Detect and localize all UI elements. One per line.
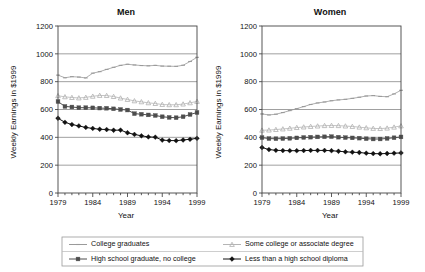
data-point-diamond [146, 135, 151, 140]
legend-item-label: High school graduate, no college [91, 254, 196, 263]
data-point-square [316, 135, 320, 139]
data-point-square [385, 137, 389, 141]
data-point-diamond [322, 148, 327, 153]
x-tick-label: 1994 [154, 198, 171, 207]
y-tick-label: 1000 [36, 50, 53, 59]
data-point-square [105, 106, 109, 110]
panel-title-women: Women [314, 7, 346, 17]
y-tick-label: 1200 [36, 22, 53, 31]
series-line [58, 57, 197, 78]
data-point-diamond [63, 120, 68, 125]
legend-item-label: Less than a high school diploma [245, 254, 348, 263]
x-tick-label: 1989 [119, 198, 136, 207]
x-tick-label: 1984 [288, 198, 305, 207]
data-point-diamond [274, 148, 279, 153]
data-point-diamond [350, 150, 355, 155]
series-3 [260, 145, 404, 156]
data-point-diamond [118, 128, 123, 133]
x-tick-label: 1984 [84, 198, 101, 207]
y-tick-label: 0 [49, 189, 53, 198]
data-point-diamond [104, 127, 109, 132]
data-point-diamond [315, 148, 320, 153]
data-point-diamond [83, 125, 88, 130]
x-tick-label: 1999 [189, 198, 206, 207]
x-tick-label: 1994 [358, 198, 375, 207]
data-point-diamond [336, 149, 341, 154]
data-point-square [378, 137, 382, 141]
series-2 [260, 135, 403, 141]
y-tick-label: 200 [40, 161, 53, 170]
series-1 [56, 93, 200, 107]
data-point-diamond [308, 148, 313, 153]
data-point-diamond [125, 130, 130, 135]
data-point-square [344, 136, 348, 140]
xtick-labels-women: 19791984198919941999 [254, 198, 410, 207]
data-point-square [119, 108, 123, 112]
x-tick-label: 1979 [50, 198, 67, 207]
data-point-square [98, 106, 102, 110]
x-tick-label: 1979 [254, 198, 271, 207]
data-point-square [357, 136, 361, 140]
data-point-square [295, 136, 299, 140]
x-tick-label: 1989 [323, 198, 340, 207]
y-tick-label: 400 [40, 133, 53, 142]
xtick-labels-men: 19791984198919941999 [50, 198, 206, 207]
data-point-diamond [90, 126, 95, 131]
data-point-diamond [132, 132, 137, 137]
data-point-diamond [153, 135, 158, 140]
data-point-square [181, 115, 185, 119]
ytick-labels-men: 020040060080010001200 [36, 22, 53, 198]
data-point-diamond [174, 138, 179, 143]
data-point-square [160, 115, 164, 119]
data-point-square [153, 114, 157, 118]
y-tick-label: 200 [244, 161, 257, 170]
legend: College graduatesSome college or associa… [62, 237, 363, 266]
data-point-diamond [301, 148, 306, 153]
data-point-diamond [280, 148, 285, 153]
data-point-square [323, 135, 327, 139]
data-point-diamond [378, 151, 383, 156]
data-point-square [281, 137, 285, 141]
data-point-diamond [392, 151, 397, 156]
data-point-diamond [267, 147, 272, 152]
data-point-diamond [294, 148, 299, 153]
data-point-diamond [97, 127, 102, 132]
y-tick-label: 600 [244, 105, 257, 114]
data-point-diamond [160, 138, 165, 143]
figure-root: Men Weekly Earnings in $1999 Year 020040… [0, 0, 425, 272]
y-tick-label: 600 [40, 105, 53, 114]
panel-women: Women Weekly Earnings in $1999 Year 0200… [214, 7, 409, 220]
data-point-diamond [343, 149, 348, 154]
legend-item-label: College graduates [91, 239, 150, 248]
data-point-square [91, 106, 95, 110]
series-0 [56, 57, 199, 78]
data-point-square [364, 137, 368, 141]
data-point-diamond [329, 148, 334, 153]
data-point-diamond [167, 138, 172, 143]
series-1 [260, 123, 404, 132]
data-point-square [188, 113, 192, 117]
y-tick-label: 800 [244, 77, 257, 86]
data-point-square [371, 137, 375, 141]
data-point-diamond [371, 151, 376, 156]
panel-title-men: Men [117, 7, 135, 17]
ticks-women [259, 26, 401, 197]
data-point-square [330, 135, 334, 139]
data-point-diamond [385, 151, 390, 156]
data-point-diamond [181, 138, 186, 143]
series-3 [56, 116, 200, 143]
series-0 [260, 90, 403, 115]
data-point-square [146, 113, 150, 117]
data-point-square [140, 112, 144, 116]
data-point-square [174, 116, 178, 120]
data-point-square [267, 137, 271, 141]
series-group-men [56, 57, 200, 143]
data-point-square [126, 108, 130, 112]
x-axis-title-women: Year [322, 211, 339, 220]
data-point-square [70, 105, 74, 109]
data-point-square [63, 105, 67, 109]
data-point-diamond [364, 151, 369, 156]
legend-item-label: Some college or associate degree [245, 239, 354, 248]
series-line [262, 90, 401, 115]
y-axis-title-women: Weekly Earnings in $1999 [214, 65, 223, 158]
